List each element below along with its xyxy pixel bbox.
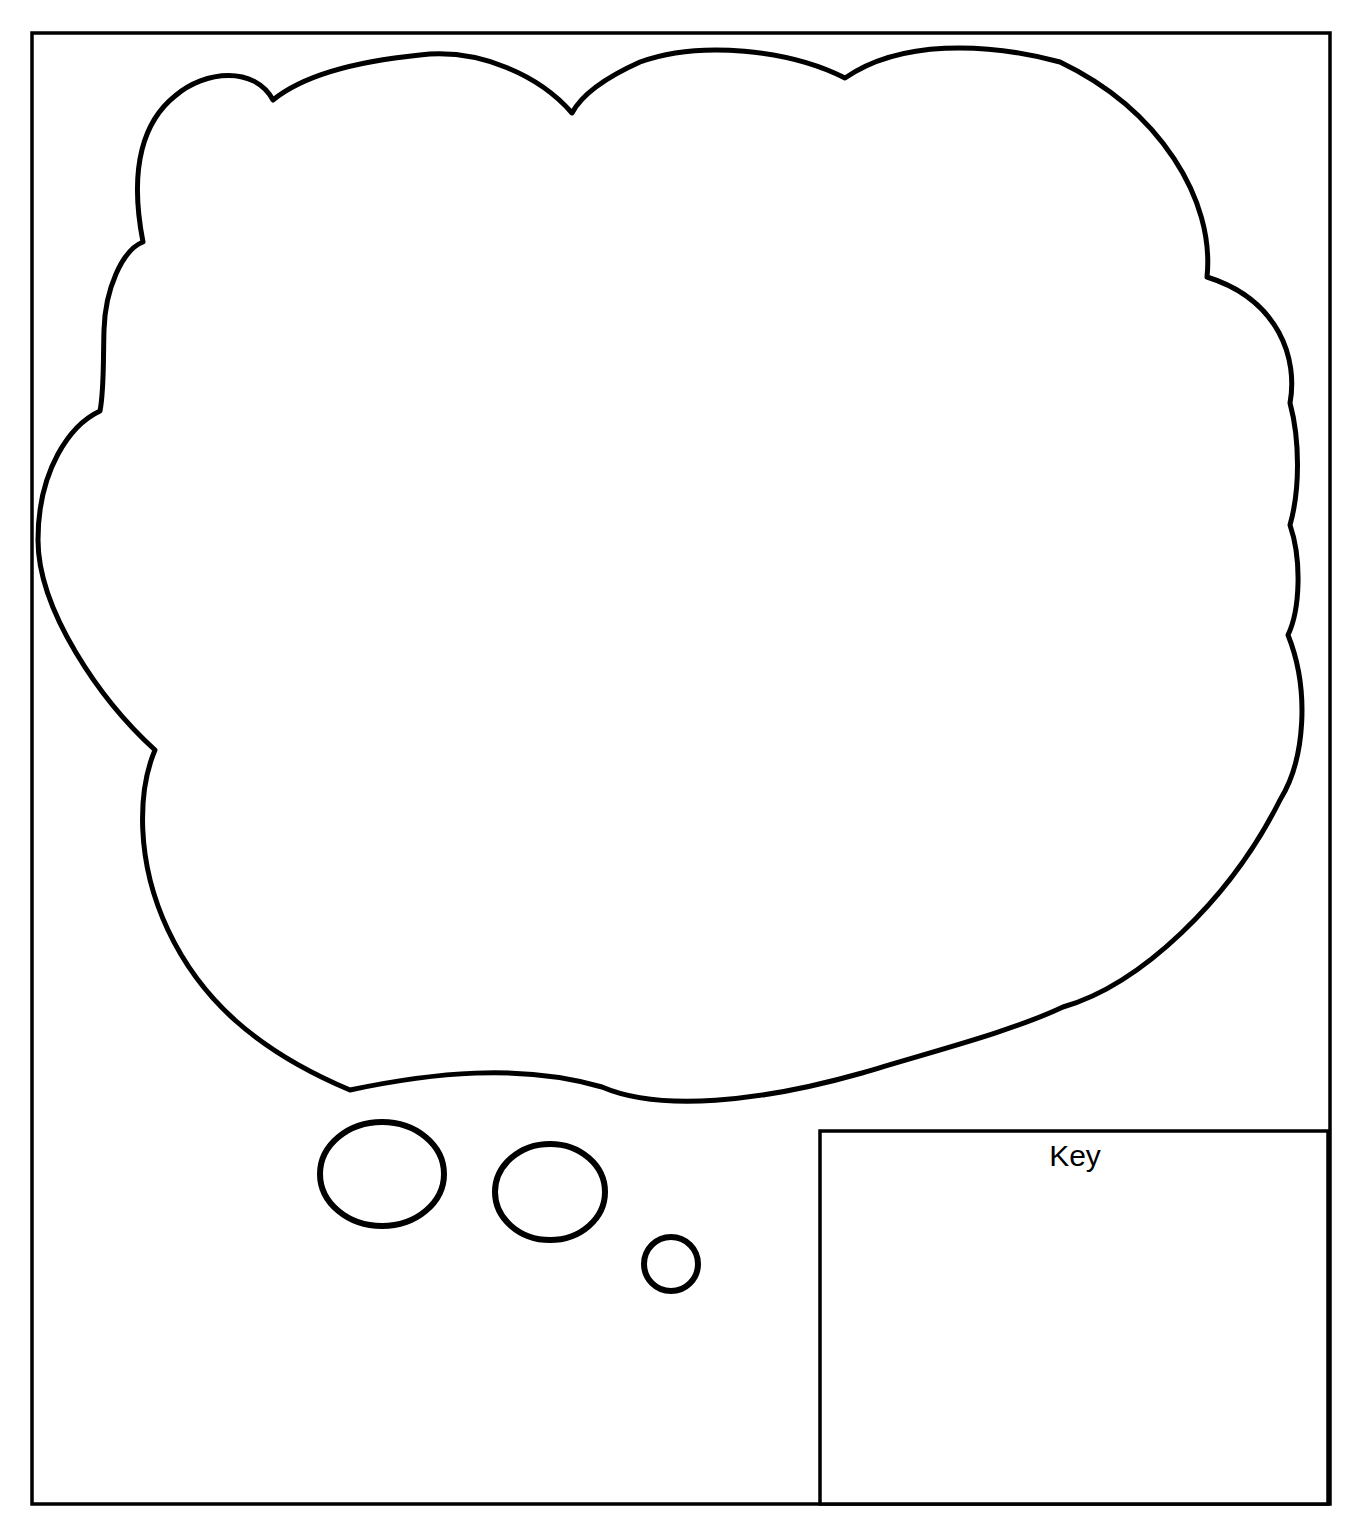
tail-bubble-large[interactable]	[320, 1122, 444, 1226]
key-title: Key	[820, 1139, 1330, 1173]
thought-cloud-writing-area[interactable]	[150, 160, 1150, 980]
worksheet-page: Key	[0, 0, 1355, 1525]
tail-bubble-small[interactable]	[644, 1237, 698, 1291]
key-writing-area[interactable]	[832, 1180, 1318, 1492]
tail-bubble-medium[interactable]	[495, 1144, 605, 1240]
